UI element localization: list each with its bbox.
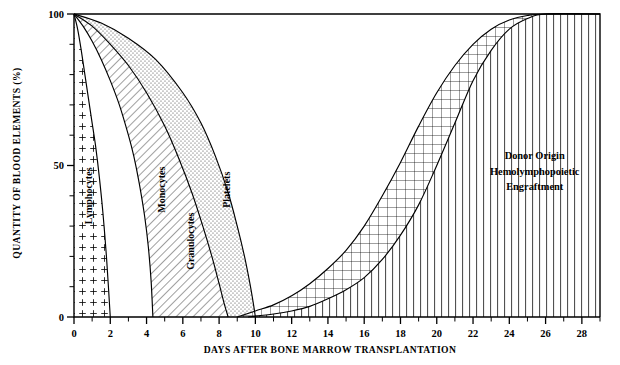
y-tick-label: 0 [59,312,64,323]
y-tick-label: 100 [48,9,64,20]
x-tick-label: 10 [250,328,261,339]
x-tick-label: 18 [395,328,406,339]
engraftment-label: Donor Origin [505,150,565,161]
x-tick-label: 6 [180,328,185,339]
x-tick-label: 20 [432,328,443,339]
x-axis-title: DAYS AFTER BONE MARROW TRANSPLANTATION [204,344,457,355]
x-tick-label: 28 [577,328,588,339]
band-label: Lymphocytes [83,167,94,224]
chart-figure: 0246810121416182022242628050100 Lymphocy… [0,0,620,365]
band-label: Granulocytes [185,213,196,270]
x-tick-label: 8 [216,328,221,339]
x-tick-label: 26 [540,328,551,339]
x-tick-label: 16 [359,328,370,339]
x-tick-label: 2 [108,328,113,339]
band-label: Monocytes [156,167,167,213]
blood-element-recovery-chart: 0246810121416182022242628050100 Lymphocy… [0,0,620,365]
y-tick-label: 50 [54,160,65,171]
x-tick-label: 12 [286,328,297,339]
band-label: Platelets [221,172,232,208]
x-tick-label: 4 [144,328,150,339]
x-tick-label: 14 [323,328,334,339]
engraftment-label: Hemolymphopoietic [490,166,580,177]
x-tick-label: 0 [71,328,76,339]
y-axis-title: QUANTITY OF BLOOD ELEMENTS (%) [11,67,23,258]
x-tick-label: 24 [504,328,515,339]
x-tick-label: 22 [468,328,479,339]
engraftment-label: Engraftment [506,181,564,192]
